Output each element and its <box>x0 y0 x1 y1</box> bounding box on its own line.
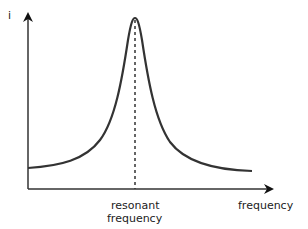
y-axis-label: i <box>8 9 11 22</box>
resonant-label-line2: frequency <box>107 212 162 225</box>
resonance-diagram <box>0 0 308 229</box>
resonance-curve <box>28 18 252 171</box>
x-axis-label: frequency <box>238 199 293 212</box>
resonant-label-line1: resonant <box>111 199 160 212</box>
